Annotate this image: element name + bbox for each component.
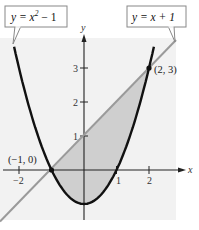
point-2-3 [146,65,151,70]
tick-label-y-2: 2 [73,97,78,108]
x-axis-arrow-icon [178,168,186,173]
svg-text:y = x2 − 1: y = x2 − 1 [10,9,57,24]
x-axis-label: x [187,164,193,175]
chart: −2 1 2 1 2 3 x y (−1, 0) (2, 3) y = x2 −… [0,0,199,230]
point-label-neg1-0: (−1, 0) [8,154,37,166]
tick-label-x-neg2: −2 [13,175,24,186]
tick-label-y-3: 3 [73,63,78,74]
point-label-2-3: (2, 3) [154,64,177,76]
parabola-eq-suffix: − 1 [38,11,56,23]
callout-line: y = x + 1 [127,6,186,42]
tick-label-x-2: 2 [147,175,152,186]
y-axis-label: y [80,22,86,33]
parabola-eq-prefix: y = x [10,11,36,24]
tick-label-x-1: 1 [116,175,121,186]
line-eq-label: y = x + 1 [131,11,175,24]
tick-label-y-1: 1 [73,131,78,142]
point-neg1-0 [49,167,54,172]
